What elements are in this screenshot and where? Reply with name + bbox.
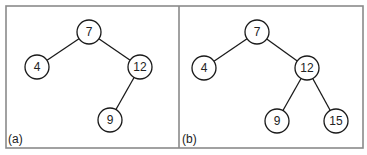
tree-node: 9 [265,109,289,133]
tree-node: 9 [98,108,122,132]
tree-node: 12 [295,56,319,80]
panel-a: 7 4 12 9 (a) [8,20,152,146]
node-label: 9 [107,113,114,127]
tree-node: 15 [324,109,348,133]
node-label: 4 [34,60,41,74]
node-label: 9 [274,114,281,128]
tree-node: 7 [245,20,269,44]
node-label: 4 [201,61,208,75]
tree-node: 4 [192,56,216,80]
node-label: 15 [329,114,343,128]
binary-search-tree-figure: 7 4 12 9 (a) 7 4 12 9 15 (b) [0,0,367,155]
tree-node: 7 [77,20,101,44]
panel-label: (a) [8,132,23,146]
node-label: 12 [300,61,314,75]
node-label: 12 [133,60,147,74]
tree-node: 12 [128,55,152,79]
node-label: 7 [254,25,261,39]
panel-b: 7 4 12 9 15 (b) [182,20,348,146]
node-label: 7 [86,25,93,39]
panel-label: (b) [182,132,197,146]
tree-node: 4 [25,55,49,79]
